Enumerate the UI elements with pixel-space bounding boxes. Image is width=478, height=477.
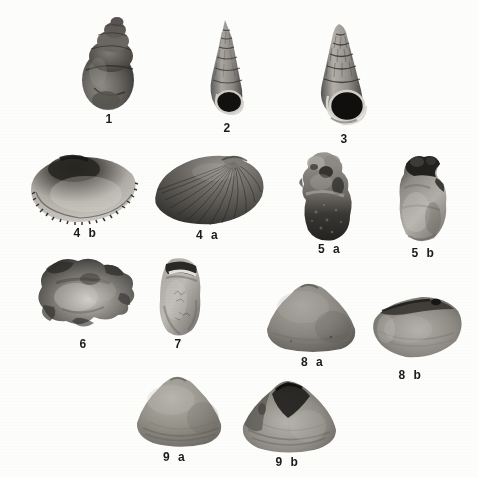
specimen-1: [78, 14, 140, 114]
specimen-9b: [238, 378, 342, 456]
fig-5a-label: 5 a: [318, 242, 342, 256]
fig-8b-label: 8 b: [399, 368, 424, 382]
fig-8a-label: 8 a: [301, 355, 325, 369]
fig-4a-label: 4 a: [196, 228, 220, 242]
fig-1-label: 1: [105, 112, 114, 126]
specimen-5b: [390, 152, 454, 246]
fig-3-label: 3: [340, 132, 349, 146]
specimen-2: [199, 18, 255, 124]
specimen-plate: 1: [0, 0, 478, 477]
fig-7-label: 7: [174, 337, 183, 351]
specimen-8a: [261, 281, 361, 357]
specimen-6: [32, 253, 138, 335]
fig-2-label: 2: [223, 121, 232, 135]
specimen-8b: [368, 293, 466, 365]
specimen-7: [152, 256, 210, 340]
specimen-4b: [26, 152, 142, 228]
specimen-5a: [294, 150, 358, 244]
fig-9b-label: 9 b: [276, 455, 301, 469]
specimen-3: [311, 22, 375, 134]
fig-6-label: 6: [79, 337, 88, 351]
fig-5b-label: 5 b: [412, 246, 437, 260]
fig-9a-label: 9 a: [163, 450, 187, 464]
specimen-9a: [131, 374, 227, 452]
specimen-4a: [152, 150, 270, 230]
fig-4b-label: 4 b: [74, 226, 99, 240]
